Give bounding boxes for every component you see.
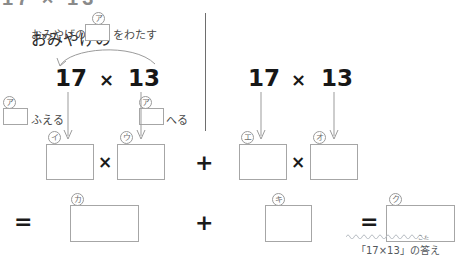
- label-i: イ: [48, 131, 61, 144]
- answer-box-ki[interactable]: [265, 205, 312, 242]
- upper-plus-operator: +: [195, 152, 213, 174]
- answer-box-instruction[interactable]: [85, 24, 110, 41]
- arrow-down-left-13: [136, 92, 146, 140]
- arrow-down-right-13: [329, 92, 339, 140]
- right-expression-second-number: 13: [321, 65, 353, 91]
- right-expression-operator: ×: [291, 69, 306, 90]
- answer-box-increase[interactable]: [3, 108, 28, 125]
- instruction-prefix-text: おみやげの: [31, 26, 86, 42]
- left-expression-second-number: 13: [128, 65, 160, 91]
- label-e: エ: [241, 131, 254, 144]
- left-product-operator: ×: [98, 154, 112, 171]
- label-o: オ: [313, 131, 326, 144]
- instruction-suffix: をわたす: [113, 26, 157, 42]
- right-expression-first-number: 17: [248, 65, 280, 91]
- wavy-underline-icon: [346, 233, 428, 239]
- lower-plus-operator: +: [195, 212, 213, 234]
- left-equals-operator: =: [14, 211, 32, 233]
- final-equals-operator: =: [360, 211, 378, 233]
- left-expression-first-number: 17: [55, 65, 87, 91]
- hint-decrease-text: へる: [166, 111, 188, 127]
- vertical-divider: [205, 13, 206, 131]
- answer-box-o[interactable]: [310, 144, 358, 180]
- final-caption-wrap: こた 「17×13」の答え: [356, 240, 461, 258]
- answer-box-ka[interactable]: [70, 205, 139, 242]
- caption-ruby: こた: [418, 233, 430, 240]
- cutoff-header: 17 × 13: [0, 0, 180, 11]
- hint-increase-text: ふえる: [31, 111, 64, 127]
- cutoff-header-text: 17 × 13: [2, 0, 97, 10]
- final-caption-text: 「17×13」の答え: [356, 245, 440, 256]
- label-u: ウ: [120, 131, 133, 144]
- answer-box-u[interactable]: [117, 144, 165, 180]
- left-expression-operator: ×: [99, 69, 114, 90]
- right-product-operator: ×: [291, 154, 305, 171]
- arrow-down-right-17: [256, 92, 266, 140]
- arrow-down-left-17: [63, 92, 73, 140]
- answer-box-e[interactable]: [239, 144, 287, 180]
- answer-box-i[interactable]: [46, 144, 94, 180]
